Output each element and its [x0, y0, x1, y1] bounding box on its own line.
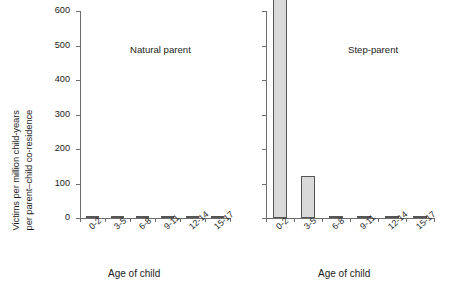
y-axis-tick: 500: [76, 46, 80, 47]
y-axis-line: [266, 11, 267, 219]
y-axis-tick: [262, 80, 266, 81]
x-axis-tick: [350, 218, 351, 222]
panel-step-parent: Step-parent 0-23-56-89-1112-1415-17 Age …: [256, 0, 446, 296]
y-axis-tick: [262, 46, 266, 47]
y-axis-tick: 300: [76, 115, 80, 116]
y-axis-line: [80, 11, 81, 219]
x-axis-tick-label: 15-17: [212, 209, 235, 231]
x-axis-tick: [322, 218, 323, 222]
y-axis-tick: [262, 11, 266, 12]
y-axis-tick: 600: [76, 11, 80, 12]
y-axis-tick-label: 300: [55, 109, 70, 119]
chart-figure: Victims per million child-years per pare…: [0, 0, 452, 296]
x-axis-tick: [155, 218, 156, 222]
x-axis-title-natural-parent: Age of child: [108, 268, 160, 279]
y-axis-tick: 200: [76, 149, 80, 150]
x-axis-tick-label: 12-14: [187, 209, 210, 231]
plot-area-natural-parent: 01002003004005006000-23-56-89-1112-1415-…: [80, 11, 230, 218]
y-axis-tick: [262, 149, 266, 150]
y-axis-tick: [262, 115, 266, 116]
x-axis-tick: [180, 218, 181, 222]
y-axis-tick-label: 600: [55, 5, 70, 15]
x-axis-tick: [230, 218, 231, 222]
plot-area-step-parent: 0-23-56-89-1112-1415-17: [266, 11, 434, 218]
panel-natural-parent: Natural parent 01002003004005006000-23-5…: [56, 0, 236, 296]
x-axis-tick: [406, 218, 407, 222]
x-axis-title-step-parent: Age of child: [318, 268, 370, 279]
x-axis-tick: [266, 218, 267, 222]
y-axis-tick: 100: [76, 184, 80, 185]
x-axis-tick: [205, 218, 206, 222]
y-axis-title: Victims per million child-years per pare…: [6, 18, 52, 230]
y-axis-tick-label: 200: [55, 143, 70, 153]
bar: [301, 176, 316, 218]
x-axis-tick: [130, 218, 131, 222]
x-axis-tick: [105, 218, 106, 222]
x-axis-tick: [294, 218, 295, 222]
x-axis-tick: [80, 218, 81, 222]
y-axis-tick: 400: [76, 80, 80, 81]
y-axis-title-line-1: Victims per million child-years: [11, 110, 20, 230]
x-axis-tick: [434, 218, 435, 222]
x-axis-tick: [378, 218, 379, 222]
y-axis-tick-label: 400: [55, 74, 70, 84]
bar: [273, 0, 288, 218]
y-axis-tick: [262, 184, 266, 185]
y-axis-tick-label: 500: [55, 40, 70, 50]
y-axis-title-line-2: per parent–child co-residence: [24, 109, 33, 230]
y-axis-tick-label: 0: [65, 212, 70, 222]
y-axis-tick-label: 100: [55, 178, 70, 188]
